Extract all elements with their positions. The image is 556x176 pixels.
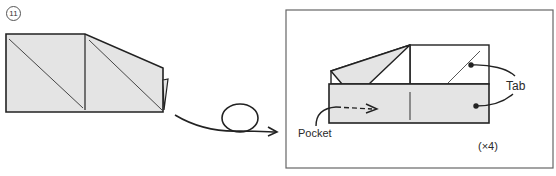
tab-label: Tab	[506, 80, 525, 92]
right-result-paper	[329, 45, 489, 123]
turn-over-arrow	[175, 104, 277, 136]
left-folded-paper	[6, 34, 168, 112]
origami-diagram	[0, 0, 556, 176]
pocket-label: Pocket	[298, 128, 332, 139]
repeat-count-label: (×4)	[478, 141, 498, 152]
